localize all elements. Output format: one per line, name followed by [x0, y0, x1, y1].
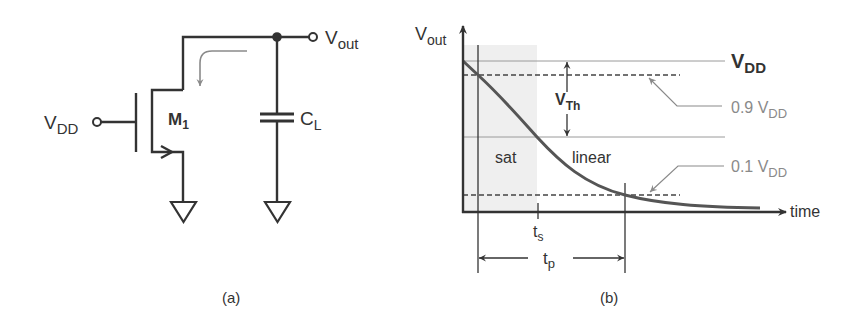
current-arrow-icon [200, 51, 247, 86]
capacitor-label: CL [300, 108, 322, 133]
vdd-label: VDD [731, 50, 766, 76]
input-label: VDD [44, 112, 79, 137]
y-axis-label: Vout [415, 24, 447, 48]
ground-icon [171, 202, 196, 222]
tp-label: tp [543, 249, 555, 271]
caption-a: (a) [222, 289, 240, 306]
region-linear-label: linear [572, 149, 612, 166]
region-sat-label: sat [495, 149, 517, 166]
callout-10-leader [650, 166, 724, 192]
drain-wire [183, 37, 309, 90]
figure-canvas: VDD Vout M1 CL (a) Vout time VDD VTh 0.9… [0, 0, 862, 325]
level-10-label: 0.1 VDD [731, 158, 787, 180]
level-90-label: 0.9 VDD [731, 99, 787, 121]
input-terminal [93, 118, 101, 126]
x-axis-label: time [790, 203, 820, 220]
transistor-label: M1 [168, 110, 189, 132]
ground-icon [265, 202, 290, 222]
callout-90-leader [649, 78, 722, 106]
drain-stub [152, 90, 183, 202]
circuit-schematic [93, 33, 317, 222]
output-terminal [309, 33, 317, 41]
vth-label: VTh [555, 91, 580, 113]
output-label: Vout [325, 27, 359, 52]
caption-b: (b) [600, 289, 618, 306]
ts-label: ts [533, 223, 543, 244]
